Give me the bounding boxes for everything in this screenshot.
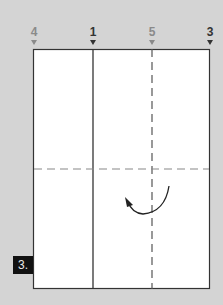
fold-diagram [0,0,223,305]
ref-label-1: 1 [86,26,100,38]
ref-arrow-4-icon [31,40,37,45]
ref-label-5: 5 [145,26,159,38]
ref-arrow-3-icon [207,40,213,45]
step-number-badge: 3. [13,256,33,274]
ref-label-4: 4 [27,26,41,38]
ref-arrow-5-icon [149,40,155,45]
ref-arrow-1-icon [90,40,96,45]
ref-label-3: 3 [203,26,217,38]
